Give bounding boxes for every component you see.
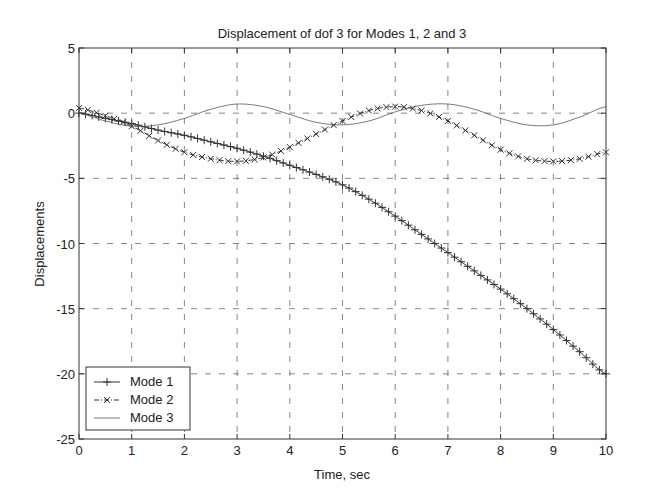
plus-marker-icon	[431, 240, 439, 248]
plus-marker-icon	[385, 208, 393, 216]
plus-marker-icon	[240, 146, 248, 154]
plus-marker-icon	[227, 143, 235, 151]
x-marker-icon	[348, 114, 354, 120]
x-marker-icon	[155, 138, 161, 144]
x-marker-icon	[173, 146, 179, 152]
x-marker-icon	[85, 107, 91, 113]
x-marker-icon	[454, 122, 460, 128]
plus-marker-icon	[477, 271, 485, 279]
x-axis-label: Time, sec	[314, 467, 370, 482]
plus-marker-icon	[161, 127, 169, 135]
plus-marker-icon	[365, 195, 373, 203]
y-tick-label: 5	[68, 41, 75, 56]
x-marker-icon	[462, 127, 468, 133]
plus-marker-icon	[292, 164, 300, 172]
x-tick-label: 8	[497, 443, 504, 458]
x-tick-labels: 012345678910	[75, 443, 613, 458]
plus-marker-icon	[470, 267, 478, 275]
y-axis-label: Displacements	[32, 201, 47, 287]
x-marker-icon	[190, 152, 196, 158]
plus-marker-icon	[246, 148, 254, 156]
x-marker-icon	[146, 133, 152, 139]
plus-marker-icon	[497, 285, 505, 293]
plus-marker-icon	[464, 262, 472, 270]
plus-marker-icon	[358, 191, 366, 199]
plus-marker-icon	[352, 188, 360, 196]
x-tick-label: 2	[181, 443, 188, 458]
x-tick-label: 6	[392, 443, 399, 458]
x-marker-icon	[164, 142, 170, 148]
x-marker-icon	[313, 131, 319, 137]
plus-marker-icon	[187, 133, 195, 141]
x-tick-label: 9	[550, 443, 557, 458]
plus-marker-icon	[418, 230, 426, 238]
x-marker-icon	[471, 132, 477, 138]
plus-marker-icon	[180, 131, 188, 139]
plus-marker-icon	[483, 276, 491, 284]
plus-marker-icon	[233, 144, 241, 152]
plus-marker-icon	[602, 370, 610, 378]
plus-marker-icon	[437, 244, 445, 252]
plus-marker-icon	[444, 249, 452, 257]
x-marker-icon	[296, 140, 302, 146]
chart-title: Displacement of dof 3 for Modes 1, 2 and…	[218, 26, 467, 41]
plus-marker-icon	[371, 199, 379, 207]
y-tick-label: 0	[68, 106, 75, 121]
x-marker-icon	[243, 158, 249, 164]
legend-label: Mode 1	[130, 374, 173, 389]
plus-marker-icon	[450, 253, 458, 261]
x-marker-icon	[278, 148, 284, 154]
plus-marker-icon	[490, 280, 498, 288]
plus-marker-icon	[424, 235, 432, 243]
plus-marker-icon	[523, 305, 531, 313]
y-tick-label: -25	[56, 432, 75, 447]
x-marker-icon	[480, 137, 486, 143]
plus-marker-icon	[194, 135, 202, 143]
x-tick-label: 10	[599, 443, 613, 458]
x-marker-icon	[436, 114, 442, 120]
x-marker-icon	[322, 127, 328, 133]
y-tick-label: -5	[63, 171, 75, 186]
plus-marker-icon	[299, 166, 307, 174]
plus-marker-icon	[378, 203, 386, 211]
x-marker-icon	[515, 153, 521, 159]
y-tick-label: -20	[56, 367, 75, 382]
y-tick-label: -15	[56, 302, 75, 317]
x-marker-icon	[489, 142, 495, 148]
y-tick-label: -10	[56, 237, 75, 252]
plus-marker-icon	[398, 217, 406, 225]
plus-marker-icon	[404, 221, 412, 229]
plus-marker-icon	[213, 139, 221, 147]
legend: Mode 1 Mode 2 Mode 3	[86, 367, 190, 430]
x-marker-icon	[304, 135, 310, 141]
legend-label: Mode 2	[130, 392, 173, 407]
plus-marker-icon	[510, 295, 518, 303]
plus-marker-icon	[167, 129, 175, 137]
plus-marker-icon	[259, 152, 267, 160]
x-tick-label: 4	[286, 443, 293, 458]
plus-marker-icon	[391, 212, 399, 220]
x-marker-icon	[585, 154, 591, 160]
x-marker-icon	[94, 110, 100, 116]
plus-marker-icon	[411, 226, 419, 234]
series-lines	[75, 104, 610, 378]
x-tick-label: 1	[128, 443, 135, 458]
plus-marker-icon	[503, 290, 511, 298]
plus-marker-icon	[154, 126, 162, 134]
plus-marker-icon	[516, 300, 524, 308]
plus-marker-icon	[207, 138, 215, 146]
series-line-mode-1	[79, 113, 606, 374]
x-tick-label: 0	[75, 443, 82, 458]
x-marker-icon	[506, 150, 512, 156]
chart: 012345678910 50-5-10-15-20-25 Displaceme…	[0, 0, 649, 504]
plus-marker-icon	[457, 258, 465, 266]
plus-marker-icon	[174, 130, 182, 138]
x-marker-icon	[594, 151, 600, 157]
x-marker-icon	[419, 108, 425, 114]
plus-marker-icon	[200, 136, 208, 144]
x-tick-label: 3	[233, 443, 240, 458]
plus-marker-icon	[220, 141, 228, 149]
legend-label: Mode 3	[130, 410, 173, 425]
x-marker-icon	[137, 128, 143, 134]
x-tick-label: 7	[444, 443, 451, 458]
